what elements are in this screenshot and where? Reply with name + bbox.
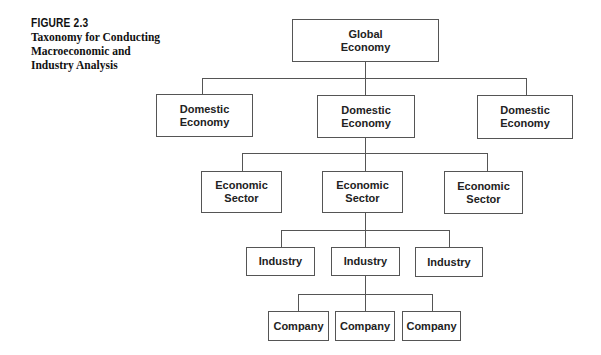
connector [298,294,299,311]
node-economic-sector-left: Economic Sector [201,171,282,213]
node-company-center: Company [335,311,395,341]
connector [365,153,366,171]
node-label: Economic Sector [457,180,510,206]
node-economic-sector-center: Economic Sector [322,171,403,213]
node-label: Domestic Economy [341,104,391,130]
connector [449,230,450,247]
node-label: Industry [427,256,470,269]
node-label: Company [406,320,456,333]
figure-label: FIGURE 2.3 [31,16,142,30]
connector [365,276,366,294]
node-company-left: Company [268,311,329,341]
node-label: Domestic Economy [180,103,230,129]
node-industry-center: Industry [331,247,400,276]
connector [365,62,366,78]
node-label: Economic Sector [215,179,268,205]
connector [242,153,243,171]
connector [365,138,366,153]
connector [365,294,366,311]
figure-caption: FIGURE 2.3 Taxonomy for Conducting Macro… [31,16,161,72]
node-label: Domestic Economy [500,104,550,130]
connector [365,78,366,95]
node-label: Economic Sector [336,179,389,205]
node-company-right: Company [402,311,461,341]
connector [487,153,488,171]
node-global-economy: Global Economy [292,19,439,62]
node-domestic-economy-right: Domestic Economy [477,95,573,139]
node-label: Global Economy [341,28,391,54]
node-industry-right: Industry [415,247,483,277]
connector [526,78,527,95]
node-label: Industry [259,255,302,268]
node-label: Company [340,320,390,333]
connector [202,78,203,94]
node-label: Company [273,320,323,333]
figure-title: Taxonomy for Conducting Macroeconomic an… [31,30,161,72]
connector [281,230,282,247]
connector [365,213,366,230]
node-domestic-economy-left: Domestic Economy [156,94,253,137]
node-economic-sector-right: Economic Sector [444,171,523,214]
connector [432,294,433,311]
connector [365,230,366,247]
node-label: Industry [344,255,387,268]
node-industry-left: Industry [246,247,315,276]
node-domestic-economy-center: Domestic Economy [317,95,415,138]
